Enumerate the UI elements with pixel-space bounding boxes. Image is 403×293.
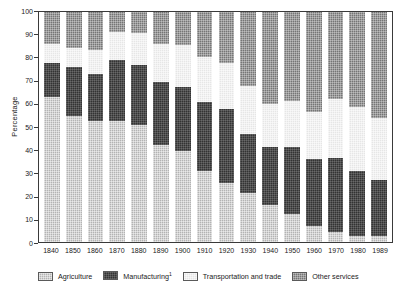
x-tick-label: 1980: [347, 246, 369, 258]
bar-segment[interactable]: [262, 205, 278, 242]
bar-segment[interactable]: [284, 12, 300, 101]
bar-segment[interactable]: [349, 171, 365, 237]
bar-segment[interactable]: [240, 193, 256, 242]
stacked-bar[interactable]: [109, 12, 125, 242]
bar-segment[interactable]: [328, 99, 344, 158]
bar-segment[interactable]: [197, 171, 213, 242]
bar-segment[interactable]: [306, 112, 322, 159]
bar-segment[interactable]: [240, 12, 256, 86]
x-tick-label: 1920: [216, 246, 238, 258]
bar-segment[interactable]: [328, 232, 344, 242]
x-tick-label: 1950: [281, 246, 303, 258]
bar-segment[interactable]: [197, 102, 213, 171]
stacked-bar[interactable]: [131, 12, 147, 242]
x-tick-label: 1900: [172, 246, 194, 258]
bar-segment[interactable]: [284, 101, 300, 147]
bar-segment[interactable]: [306, 226, 322, 242]
bar-segment[interactable]: [306, 159, 322, 226]
bar-segment[interactable]: [262, 104, 278, 147]
bar-segment[interactable]: [153, 82, 169, 145]
bar-segment[interactable]: [131, 125, 147, 242]
bar-segment[interactable]: [262, 12, 278, 104]
y-tick-label: 30: [0, 170, 38, 177]
stacked-bar[interactable]: [284, 12, 300, 242]
y-tick-label: 80: [0, 54, 38, 61]
bar-segment[interactable]: [328, 12, 344, 99]
y-tick-mark: [34, 243, 38, 244]
stacked-bar[interactable]: [153, 12, 169, 242]
bar-segment[interactable]: [88, 12, 104, 50]
bar-segment[interactable]: [44, 12, 60, 44]
legend-item[interactable]: Other services: [292, 272, 358, 281]
bar-segment[interactable]: [371, 236, 387, 242]
bar-segment[interactable]: [175, 151, 191, 242]
stacked-bar[interactable]: [262, 12, 278, 242]
bar-group: [39, 12, 392, 242]
stacked-bar[interactable]: [88, 12, 104, 242]
bar-segment[interactable]: [175, 87, 191, 151]
stacked-bar[interactable]: [306, 12, 322, 242]
bar-segment[interactable]: [371, 118, 387, 180]
bar-segment[interactable]: [109, 60, 125, 121]
bar-segment[interactable]: [66, 67, 82, 115]
bar-segment[interactable]: [66, 48, 82, 68]
bar-segment[interactable]: [349, 236, 365, 242]
chart-legend: AgricultureManufacturing1Transportation …: [38, 268, 398, 284]
stacked-bar[interactable]: [328, 12, 344, 242]
bar-segment[interactable]: [219, 63, 235, 109]
bar-segment[interactable]: [240, 86, 256, 134]
legend-item[interactable]: Manufacturing1: [103, 270, 171, 281]
bar-segment[interactable]: [109, 32, 125, 61]
bar-segment[interactable]: [240, 134, 256, 193]
bar-slot: [368, 12, 390, 242]
bar-segment[interactable]: [328, 158, 344, 232]
stacked-bar[interactable]: [197, 12, 213, 242]
bar-segment[interactable]: [88, 74, 104, 121]
bar-slot: [128, 12, 150, 242]
bar-segment[interactable]: [88, 121, 104, 242]
bar-segment[interactable]: [153, 145, 169, 242]
bar-segment[interactable]: [349, 12, 365, 107]
bar-segment[interactable]: [131, 12, 147, 33]
bar-segment[interactable]: [371, 180, 387, 236]
stacked-bar[interactable]: [175, 12, 191, 242]
bar-segment[interactable]: [109, 121, 125, 242]
x-tick-label: 1850: [62, 246, 84, 258]
bar-segment[interactable]: [371, 12, 387, 118]
bar-segment[interactable]: [175, 45, 191, 86]
legend-item[interactable]: Agriculture: [38, 272, 92, 281]
bar-segment[interactable]: [66, 116, 82, 243]
bar-slot: [150, 12, 172, 242]
bar-segment[interactable]: [219, 183, 235, 242]
bar-segment[interactable]: [131, 33, 147, 65]
bar-segment[interactable]: [44, 97, 60, 242]
bar-segment[interactable]: [88, 50, 104, 74]
bar-segment[interactable]: [44, 63, 60, 98]
bar-segment[interactable]: [306, 12, 322, 112]
bar-segment[interactable]: [219, 12, 235, 63]
stacked-bar[interactable]: [219, 12, 235, 242]
bar-segment[interactable]: [349, 107, 365, 170]
bar-segment[interactable]: [284, 147, 300, 215]
bar-segment[interactable]: [44, 44, 60, 62]
bar-segment[interactable]: [153, 44, 169, 82]
stacked-bar[interactable]: [349, 12, 365, 242]
stacked-bar[interactable]: [66, 12, 82, 242]
stacked-bar[interactable]: [371, 12, 387, 242]
bar-segment[interactable]: [197, 12, 213, 57]
bar-segment[interactable]: [284, 214, 300, 242]
legend-item[interactable]: Transportation and trade: [183, 272, 281, 281]
stacked-bar[interactable]: [44, 12, 60, 242]
stacked-bar[interactable]: [240, 12, 256, 242]
bar-segment[interactable]: [109, 12, 125, 32]
bar-segment[interactable]: [175, 12, 191, 45]
bar-segment[interactable]: [66, 12, 82, 48]
bar-segment[interactable]: [262, 147, 278, 206]
bar-slot: [41, 12, 63, 242]
y-tick-label: 10: [0, 216, 38, 223]
bar-segment[interactable]: [131, 65, 147, 125]
bar-segment[interactable]: [219, 109, 235, 184]
bar-segment[interactable]: [153, 12, 169, 44]
bar-slot: [325, 12, 347, 242]
bar-segment[interactable]: [197, 57, 213, 102]
